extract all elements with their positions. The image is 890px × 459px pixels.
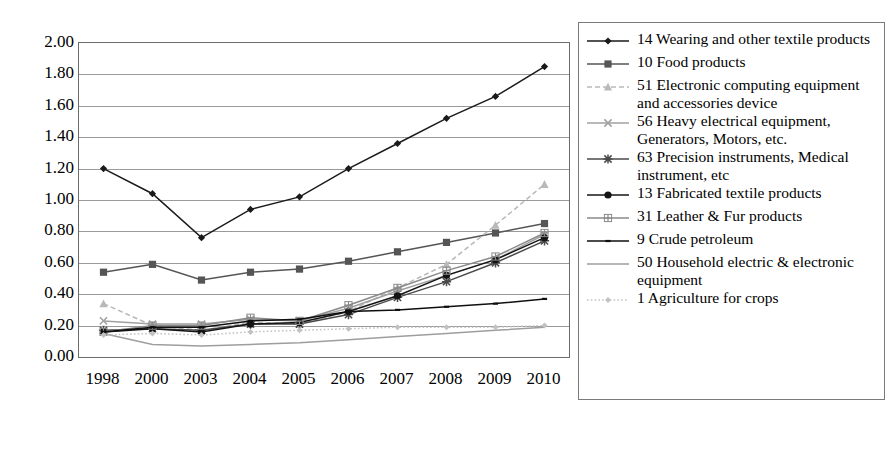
x-axis-tick-label: 2006 xyxy=(331,370,365,387)
data-point-marker-square xyxy=(492,229,499,236)
data-point-marker-diamond xyxy=(100,165,107,172)
data-point-marker-small-diamond xyxy=(297,327,303,333)
y-axis-tick-label: 1.00 xyxy=(4,190,74,207)
legend-marker-cross-icon xyxy=(583,112,635,134)
data-point-marker-square xyxy=(394,248,401,255)
data-point-marker-square xyxy=(604,60,611,67)
data-point-marker-square xyxy=(541,220,548,227)
data-point-marker-small-diamond xyxy=(444,324,450,330)
data-point-marker-triangle xyxy=(99,299,107,307)
data-point-marker-diamond xyxy=(247,206,254,213)
legend-item[interactable]: 51 Electronic computing equipment and ac… xyxy=(583,76,880,111)
data-point-marker-diamond xyxy=(541,63,548,70)
data-point-marker-square xyxy=(345,258,352,265)
y-axis-tick-label: 0.80 xyxy=(4,221,74,238)
y-axis-tick-label: 0.00 xyxy=(4,347,74,364)
legend-item[interactable]: 13 Fabricated textile products xyxy=(583,184,880,206)
legend-item[interactable]: 50 Household electric & electronic equip… xyxy=(583,253,880,288)
data-point-marker-square xyxy=(198,276,205,283)
data-point-marker-diamond xyxy=(394,140,401,147)
data-point-marker-square xyxy=(296,265,303,272)
legend-marker-triangle-icon xyxy=(583,76,635,98)
legend-item[interactable]: 14 Wearing and other textile products xyxy=(583,30,880,52)
x-axis-tick-label: 2008 xyxy=(429,370,463,387)
y-axis-tick-label: 0.40 xyxy=(4,284,74,301)
data-point-marker-square xyxy=(100,269,107,276)
series-4 xyxy=(99,236,549,335)
y-axis: 2.001.801.601.401.201.000.800.600.400.20… xyxy=(0,0,74,459)
y-axis-tick-label: 1.20 xyxy=(4,159,74,176)
data-point-marker-star xyxy=(603,154,612,163)
series-2 xyxy=(99,180,548,334)
legend-item-label: 13 Fabricated textile products xyxy=(635,184,822,202)
legend-marker-diamond-icon xyxy=(583,30,635,52)
legend-marker-none-icon xyxy=(583,253,635,275)
data-point-marker-diamond xyxy=(345,165,352,172)
x-axis-tick-label: 1998 xyxy=(86,370,120,387)
gridline xyxy=(79,357,569,358)
legend-item[interactable]: 63 Precision instruments, Medical instru… xyxy=(583,148,880,183)
data-point-marker-dash xyxy=(248,320,253,322)
x-axis-tick-label: 2003 xyxy=(184,370,218,387)
legend-item-label: 10 Food products xyxy=(635,53,746,71)
chart-legend: 14 Wearing and other textile products10 … xyxy=(578,22,885,400)
data-point-marker-dash xyxy=(199,326,204,328)
y-axis-tick-label: 1.60 xyxy=(4,96,74,113)
data-point-marker-small-diamond xyxy=(395,324,401,330)
data-point-marker-dash xyxy=(346,310,351,312)
y-axis-tick-label: 1.80 xyxy=(4,64,74,81)
plot-area xyxy=(78,42,570,358)
data-point-marker-small-diamond xyxy=(346,326,352,332)
x-axis-tick-label: 2004 xyxy=(233,370,267,387)
data-point-marker-dash xyxy=(444,306,449,308)
data-point-marker-diamond xyxy=(443,115,450,122)
data-point-marker-circle xyxy=(394,292,401,299)
chart-page: 2.001.801.601.401.201.000.800.600.400.20… xyxy=(0,0,890,459)
legend-item-label: 50 Household electric & electronic equip… xyxy=(635,253,880,288)
legend-marker-star-icon xyxy=(583,148,635,170)
x-axis-tick-label: 2007 xyxy=(380,370,414,387)
data-point-marker-square xyxy=(149,261,156,268)
legend-item-label: 51 Electronic computing equipment and ac… xyxy=(635,76,880,111)
legend-marker-plus-square-icon xyxy=(583,207,635,229)
legend-item-label: 56 Heavy electrical equipment, Generator… xyxy=(635,112,880,147)
y-axis-tick-label: 0.20 xyxy=(4,316,74,333)
legend-item[interactable]: 10 Food products xyxy=(583,53,880,75)
data-point-marker-small-diamond xyxy=(248,329,254,335)
data-point-marker-dash xyxy=(542,298,547,300)
data-point-marker-diamond xyxy=(296,193,303,200)
legend-item-label: 9 Crude petroleum xyxy=(635,230,753,248)
legend-item[interactable]: 1 Agriculture for crops xyxy=(583,289,880,311)
legend-item[interactable]: 31 Leather & Fur products xyxy=(583,207,880,229)
series-1 xyxy=(100,220,548,284)
series-0 xyxy=(100,63,548,241)
line-chart: 2.001.801.601.401.201.000.800.600.400.20… xyxy=(0,0,575,459)
legend-item-label: 14 Wearing and other textile products xyxy=(635,30,870,48)
legend-marker-dash-icon xyxy=(583,230,635,252)
data-point-marker-square xyxy=(443,239,450,246)
legend-marker-square-icon xyxy=(583,53,635,75)
legend-item[interactable]: 9 Crude petroleum xyxy=(583,230,880,252)
x-axis-tick-label: 2010 xyxy=(527,370,561,387)
data-point-marker-dash xyxy=(395,309,400,311)
data-point-marker-dash xyxy=(605,240,610,242)
data-point-marker-square xyxy=(247,269,254,276)
data-point-marker-small-diamond xyxy=(605,297,611,303)
legend-item-label: 1 Agriculture for crops xyxy=(635,289,779,307)
data-point-marker-triangle xyxy=(540,180,548,188)
data-point-marker-dash xyxy=(150,326,155,328)
x-axis-tick-label: 2009 xyxy=(478,370,512,387)
legend-item-label: 31 Leather & Fur products xyxy=(635,207,802,225)
x-axis-tick-label: 2000 xyxy=(135,370,169,387)
legend-marker-small-diamond-icon xyxy=(583,289,635,311)
legend-item[interactable]: 56 Heavy electrical equipment, Generator… xyxy=(583,112,880,147)
y-axis-tick-label: 2.00 xyxy=(4,33,74,50)
series-5 xyxy=(100,234,548,335)
legend-marker-circle-icon xyxy=(583,184,635,206)
y-axis-tick-label: 1.40 xyxy=(4,127,74,144)
y-axis-tick-label: 0.60 xyxy=(4,253,74,270)
data-point-marker-dash xyxy=(493,303,498,305)
data-point-marker-small-diamond xyxy=(493,324,499,330)
data-point-marker-circle xyxy=(604,191,611,198)
data-point-marker-diamond xyxy=(492,93,499,100)
